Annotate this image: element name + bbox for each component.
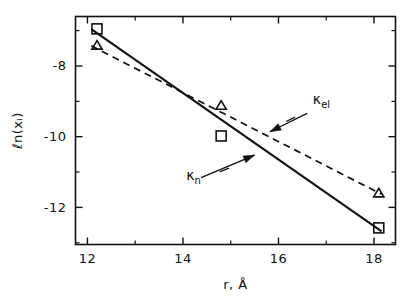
x-tick-label: 14 (174, 251, 192, 266)
y-axis-title: ℓn(xᵢ) (10, 112, 25, 150)
fit-lines (91, 29, 381, 231)
series-annotations: κelκn (186, 91, 330, 186)
x-tick-label: 16 (270, 251, 288, 266)
data-point-triangle (216, 101, 226, 109)
figure-container: 12141618 -8-10-12 κelκn r, Åℓn(xᵢ) (0, 0, 413, 297)
data-point-triangle (374, 188, 384, 196)
y-tick-label: -10 (44, 129, 67, 144)
scatter-plot: 12141618 -8-10-12 κelκn r, Åℓn(xᵢ) (0, 0, 413, 297)
x-tick-label: 18 (365, 251, 383, 266)
x-axis-title: r, Å (223, 277, 248, 292)
fit-line-kappa-n (91, 29, 381, 231)
y-axis-tick-labels: -8-10-12 (44, 58, 67, 214)
series-label-kappa-n: κn (186, 167, 201, 186)
annotation-arrowhead (243, 155, 255, 163)
series-label-kappa-el: κel (313, 91, 330, 110)
y-tick-label: -8 (53, 58, 67, 73)
data-point-square (216, 131, 226, 141)
x-tick-label: 12 (79, 251, 97, 266)
x-axis-tick-labels: 12141618 (79, 251, 383, 266)
svg-text:ℓn(xᵢ): ℓn(xᵢ) (10, 112, 25, 150)
annotation-arrowhead (270, 124, 281, 132)
y-tick-label: -12 (44, 200, 67, 215)
fit-line-kappa-el (91, 46, 381, 194)
